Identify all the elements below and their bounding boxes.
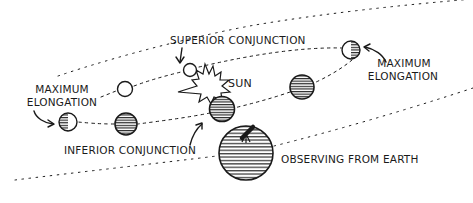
label-max-elongation-right-line1: MAXIMUM	[366, 58, 442, 69]
arrow-superior-conjunction-icon	[176, 48, 184, 63]
label-max-elongation-left-line1: MAXIMUM	[24, 84, 100, 95]
label-max-elongation-right-line2: ELONGATION	[360, 71, 446, 82]
planet-lower-left	[115, 113, 137, 135]
planet-inferior-conjunction	[210, 97, 235, 122]
arrow-inferior-conjunction-icon	[190, 123, 202, 145]
label-inferior-conjunction: INFERIOR CONJUNCTION	[64, 145, 196, 156]
planet-upper-left	[118, 82, 133, 97]
orbital-diagram: SUPERIOR CONJUNCTION SUN MAXIMUM ELONGAT…	[0, 0, 473, 203]
planet-max-elongation-left	[58, 112, 77, 132]
label-superior-conjunction: SUPERIOR CONJUNCTION	[170, 35, 306, 46]
label-earth: OBSERVING FROM EARTH	[281, 154, 419, 165]
planet-superior-conjunction	[184, 64, 197, 77]
planet-lower-right	[290, 75, 314, 99]
label-max-elongation-left-line2: ELONGATION	[22, 97, 102, 108]
arrow-max-elongation-left-icon	[34, 111, 54, 127]
planet-max-elongation-right	[342, 40, 361, 60]
label-sun: SUN	[228, 78, 252, 89]
earth	[219, 126, 273, 180]
